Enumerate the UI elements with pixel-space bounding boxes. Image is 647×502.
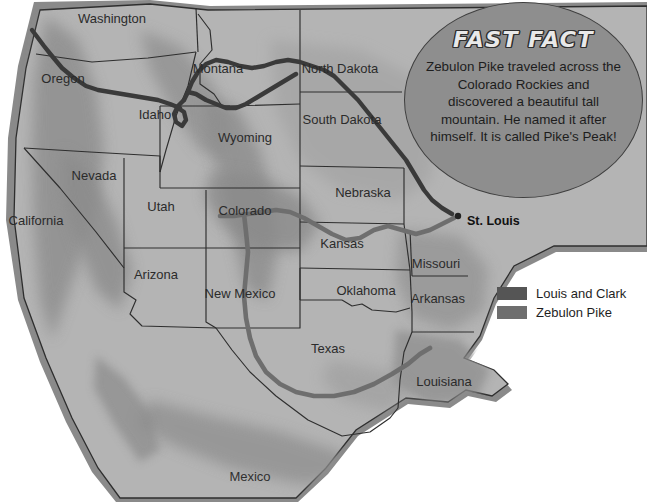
state-label-louisiana: Louisiana [416,374,472,389]
city-marker-st-louis [455,213,461,219]
map-legend: Louis and Clark Zebulon Pike [497,286,626,320]
state-label-wyoming: Wyoming [218,130,272,145]
state-label-utah: Utah [147,199,174,214]
state-label-oregon: Oregon [41,71,84,86]
state-label-colorado: Colorado [219,203,272,218]
fast-fact-callout: FAST FACT Zebulon Pike traveled across t… [404,2,643,198]
state-label-new-mexico: New Mexico [205,286,276,301]
state-label-missouri: Missouri [412,256,461,271]
state-label-north-dakota: North Dakota [302,61,379,76]
legend-label-zebulon-pike: Zebulon Pike [536,305,612,320]
city-label-st-louis: St. Louis [467,214,520,228]
state-label-nevada: Nevada [72,168,118,183]
state-label-arkansas: Arkansas [411,291,466,306]
legend-swatch-louis-and-clark [497,287,527,300]
city-dot-st-louis [455,213,461,219]
legend-item-zebulon-pike: Zebulon Pike [497,305,626,320]
legend-item-louis-and-clark: Louis and Clark [497,286,626,301]
legend-label-louis-and-clark: Louis and Clark [536,286,626,301]
state-label-texas: Texas [311,341,345,356]
state-label-arizona: Arizona [134,267,179,282]
fast-fact-body: Zebulon Pike traveled across the Colorad… [426,58,622,146]
state-label-kansas: Kansas [320,236,364,251]
state-label-south-dakota: South Dakota [303,112,383,127]
state-label-idaho: Idaho [139,107,172,122]
state-label-nebraska: Nebraska [335,185,391,200]
state-label-california: California [9,213,65,228]
fast-fact-title: FAST FACT [453,27,594,52]
legend-swatch-zebulon-pike [497,306,527,319]
state-label-montana: Montana [193,61,244,76]
state-label-washington: Washington [78,11,146,26]
state-label-oklahoma: Oklahoma [336,283,396,298]
map-figure: Washington Oregon Idaho Montana North Da… [0,0,647,502]
country-label-mexico: Mexico [229,469,270,484]
